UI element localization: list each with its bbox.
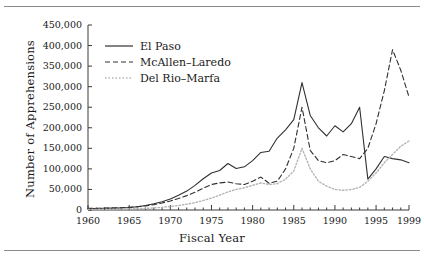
- dashed-line-key: [104, 56, 134, 68]
- legend-item[interactable]: El Paso: [104, 38, 231, 54]
- x-axis-tick-label: 1990: [315, 215, 355, 226]
- x-axis-tick-label: 1980: [233, 215, 273, 226]
- chart-legend: El PasoMcAllen–LaredoDel Rio–Marfa: [104, 38, 231, 86]
- x-axis-tick-label: 1999: [389, 215, 424, 226]
- legend-item-label: El Paso: [140, 40, 181, 53]
- legend-item-label: Del Rio–Marfa: [140, 72, 220, 85]
- x-axis-tick-label: 1975: [191, 215, 231, 226]
- x-axis-tick-label: 1965: [109, 215, 149, 226]
- y-axis-title: Number of Apprehensions: [23, 29, 37, 209]
- series-line-2: [88, 141, 409, 209]
- x-axis-tick-label: 1985: [274, 215, 314, 226]
- x-axis-tick-label: 1970: [150, 215, 190, 226]
- dotted-line-key: [104, 72, 134, 84]
- x-axis-tick-label: 1960: [68, 215, 108, 226]
- solid-line-key: [104, 40, 134, 52]
- series-line-0: [88, 83, 409, 209]
- x-axis-ticks: [88, 205, 409, 210]
- x-axis-title: Fiscal Year: [0, 231, 424, 245]
- legend-item[interactable]: McAllen–Laredo: [104, 54, 231, 70]
- figure-container: 050,000100,000150,000200,000250,000300,0…: [0, 0, 424, 258]
- y-axis-ticks: [88, 25, 92, 210]
- legend-item-label: McAllen–Laredo: [140, 56, 231, 69]
- legend-item[interactable]: Del Rio–Marfa: [104, 70, 231, 86]
